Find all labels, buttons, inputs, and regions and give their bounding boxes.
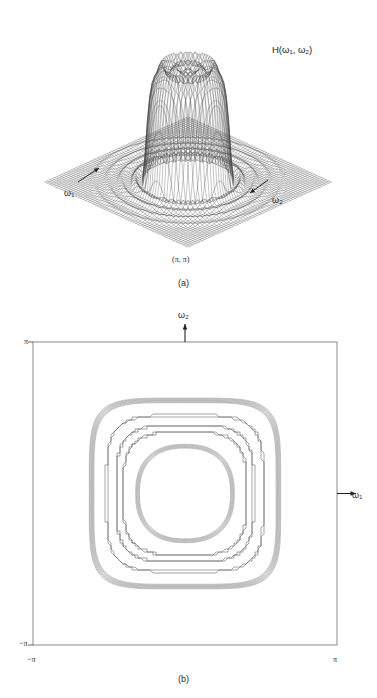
y-tick-pi-top: π: [24, 337, 28, 346]
contour-level-curve: [93, 402, 277, 585]
contour-level-curve: [139, 447, 232, 539]
caption-a: (a): [178, 278, 189, 288]
panel-b-contour-plot: ω₂ ω₁ π −π −π π (b): [0, 300, 377, 698]
contour-plot-svg: [0, 300, 377, 698]
omega1-axis-label-b: ω₁: [352, 490, 362, 500]
y-tick-minus-pi-bottom: −π: [19, 639, 28, 648]
x-tick-minus-pi-left: −π: [27, 655, 36, 664]
contour-level-curve: [123, 432, 246, 555]
omega2-axis-label-b: ω₂: [178, 310, 189, 320]
pi-pi-corner-label: (π, π): [172, 255, 189, 264]
omega1-axis-label-a: ω₁: [64, 188, 74, 198]
contour-level-curve: [140, 448, 231, 539]
contour-level-curves: [89, 398, 280, 589]
contour-level-curve: [123, 432, 246, 555]
caption-b: (b): [178, 674, 189, 684]
omega2-arrow: [183, 324, 188, 342]
contour-level-curve: [105, 414, 264, 573]
figure-container: H(ω₁, ω₂) ω₁ ω₂ (π, π) (a) ω₂ ω₁ π −π −π…: [0, 0, 377, 698]
contour-level-curve: [94, 403, 276, 585]
contour-level-curve: [92, 400, 279, 586]
contour-level-curve: [108, 417, 264, 570]
contour-level-curve: [92, 401, 277, 586]
omega2-axis-label-a: ω₂: [272, 195, 283, 205]
panel-a-surface-plot: H(ω₁, ω₂) ω₁ ω₂ (π, π) (a): [0, 0, 377, 300]
contour-plot-frame: [33, 342, 337, 645]
x-tick-pi-right: π: [333, 655, 337, 664]
surface-response-label: H(ω₁, ω₂): [272, 44, 312, 55]
contour-level-curve: [138, 447, 232, 541]
contour-level-curve: [137, 446, 233, 541]
